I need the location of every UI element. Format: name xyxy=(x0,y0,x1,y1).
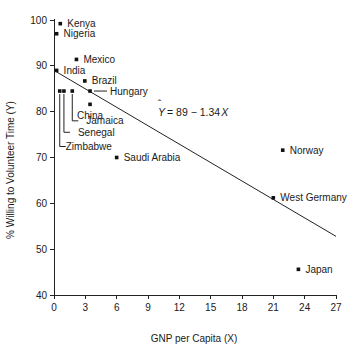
point-label-mexico: Mexico xyxy=(83,54,115,65)
point-label-hungary: Hungary xyxy=(110,86,148,97)
y-tick-label: 80 xyxy=(36,106,48,117)
leader-line-zimbabwe xyxy=(60,94,66,146)
data-marker-india xyxy=(55,69,59,73)
data-marker-hungary xyxy=(88,89,92,93)
y-tick-label: 70 xyxy=(36,152,48,163)
x-tick-label: 15 xyxy=(205,302,217,313)
y-tick-label: 60 xyxy=(36,198,48,209)
y-tick-label: 90 xyxy=(36,60,48,71)
x-tick-label: 12 xyxy=(174,302,186,313)
point-label-senegal: Senegal xyxy=(78,127,115,138)
data-marker-nigeria xyxy=(55,32,59,36)
point-label-india: India xyxy=(64,65,86,76)
data-marker-west-germany xyxy=(272,196,276,200)
point-label-norway: Norway xyxy=(290,145,324,156)
equation-body: = 89 − 1.34 xyxy=(167,106,220,118)
x-tick-label: 27 xyxy=(330,302,342,313)
y-tick-label: 50 xyxy=(36,244,48,255)
point-label-china: China xyxy=(77,110,104,121)
data-marker-zimbabwe xyxy=(58,89,62,93)
x-tick-label: 18 xyxy=(236,302,248,313)
data-marker-china xyxy=(88,103,92,107)
x-tick-label: 3 xyxy=(83,302,89,313)
point-label-west-germany: West Germany xyxy=(280,192,347,203)
y-tick-label: 40 xyxy=(36,290,48,301)
regression-equation-annotation: ˆY= 89 − 1.34X xyxy=(158,98,229,118)
data-marker-saudi-arabia xyxy=(115,156,119,160)
point-label-nigeria: Nigeria xyxy=(64,28,96,39)
data-marker-brazil xyxy=(83,79,87,83)
data-marker-japan xyxy=(297,268,301,272)
equation-y-variable: Y xyxy=(158,106,166,118)
x-tick-label: 21 xyxy=(268,302,280,313)
point-label-japan: Japan xyxy=(305,264,332,275)
leader-lines-group: JamaicaSenegalZimbabwe xyxy=(60,91,124,152)
leader-line-senegal xyxy=(64,94,70,132)
plot-svg: 405060708090100 0369121518212427 Jamaica… xyxy=(0,0,359,351)
x-axis-ticks: 0369121518212427 xyxy=(51,295,342,313)
y-axis-ticks: 405060708090100 xyxy=(30,15,54,301)
data-marker-kenya xyxy=(58,22,62,26)
y-tick-label: 100 xyxy=(30,15,47,26)
scatter-plot-figure: 405060708090100 0369121518212427 Jamaica… xyxy=(0,0,359,351)
equation-x-variable: X xyxy=(220,106,229,118)
data-marker-jamaica xyxy=(70,89,74,93)
y-axis-title: % Willing to Volunteer Time (Y) xyxy=(5,101,16,239)
data-marker-senegal xyxy=(62,89,66,93)
x-tick-label: 24 xyxy=(299,302,311,313)
x-tick-label: 0 xyxy=(51,302,57,313)
data-marker-norway xyxy=(281,148,285,152)
x-tick-label: 6 xyxy=(114,302,120,313)
point-label-saudi-arabia: Saudi Arabia xyxy=(124,152,181,163)
x-tick-label: 9 xyxy=(145,302,151,313)
data-marker-mexico xyxy=(75,58,79,62)
x-axis-title: GNP per Capita (X) xyxy=(151,333,238,344)
point-label-zimbabwe: Zimbabwe xyxy=(66,141,113,152)
